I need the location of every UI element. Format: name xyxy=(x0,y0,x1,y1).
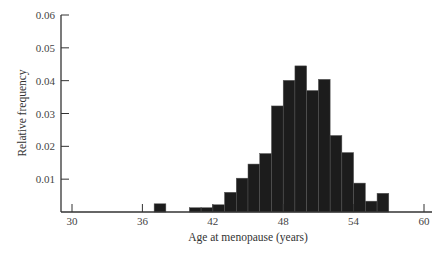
y-tick-label: 0.01 xyxy=(36,173,55,185)
histogram-bar xyxy=(365,201,377,212)
y-tick-label: 0.06 xyxy=(36,9,56,21)
x-tick-label: 30 xyxy=(67,215,79,227)
y-tick-label: 0.03 xyxy=(36,108,56,120)
histogram-bar xyxy=(354,183,366,212)
histogram-bar xyxy=(225,192,237,212)
histogram-bar xyxy=(295,66,307,212)
y-axis-ticks: 0.010.020.030.040.050.06 xyxy=(36,9,69,185)
histogram-bar xyxy=(307,91,319,212)
y-tick-label: 0.05 xyxy=(36,42,56,54)
histogram-bars xyxy=(154,66,389,212)
x-tick-label: 54 xyxy=(348,215,360,227)
y-axis-title: Relative frequency xyxy=(16,69,29,156)
histogram-bar xyxy=(154,204,166,212)
histogram-chart: 0.010.020.030.040.050.06 303642485460 Ag… xyxy=(0,0,447,257)
x-tick-label: 48 xyxy=(278,215,290,227)
histogram-bar xyxy=(377,193,389,212)
histogram-bar xyxy=(330,135,342,212)
histogram-bar xyxy=(248,164,260,212)
x-tick-label: 42 xyxy=(207,215,218,227)
histogram-bar xyxy=(271,106,283,212)
histogram-bar xyxy=(236,178,248,212)
x-axis-title: Age at menopause (years) xyxy=(188,231,308,244)
histogram-bar xyxy=(318,79,330,212)
histogram-bar xyxy=(260,154,272,212)
y-tick-label: 0.02 xyxy=(36,140,55,152)
x-tick-label: 60 xyxy=(419,215,431,227)
histogram-bar xyxy=(342,153,354,212)
histogram-bar xyxy=(213,205,225,212)
histogram-bar xyxy=(283,80,295,212)
y-tick-label: 0.04 xyxy=(36,75,56,87)
x-tick-label: 36 xyxy=(137,215,149,227)
